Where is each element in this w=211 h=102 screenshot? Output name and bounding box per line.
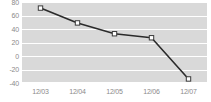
x-axis-tick-label: 12/05	[106, 88, 123, 96]
data-line	[41, 8, 189, 79]
data-point-marker	[149, 36, 153, 40]
data-point-marker	[75, 21, 79, 25]
line-chart: 806040200-20-40 12/0312/0412/0512/0612/0…	[0, 0, 211, 102]
x-axis-tick-label: 12/04	[69, 88, 86, 96]
plot-area	[22, 2, 207, 83]
y-axis-tick-label: -20	[9, 66, 19, 73]
x-axis-tick-label: 12/06	[143, 88, 160, 96]
x-axis-tick-label: 12/07	[180, 88, 197, 96]
x-axis: 12/0312/0412/0512/0612/07	[22, 86, 207, 100]
y-axis-tick-label: 40	[12, 26, 19, 33]
data-series-layer	[22, 2, 207, 83]
y-axis-tick-label: 20	[12, 39, 19, 46]
y-axis-tick-label: 60	[12, 12, 19, 19]
y-axis: 806040200-20-40	[0, 0, 21, 85]
y-axis-tick-label: 0	[15, 53, 19, 60]
data-point-marker	[112, 32, 116, 36]
y-axis-tick-label: 80	[12, 0, 19, 6]
x-axis-tick-label: 12/03	[32, 88, 49, 96]
data-point-marker	[38, 6, 42, 10]
data-point-marker	[186, 77, 190, 81]
y-axis-tick-label: -40	[9, 80, 19, 87]
